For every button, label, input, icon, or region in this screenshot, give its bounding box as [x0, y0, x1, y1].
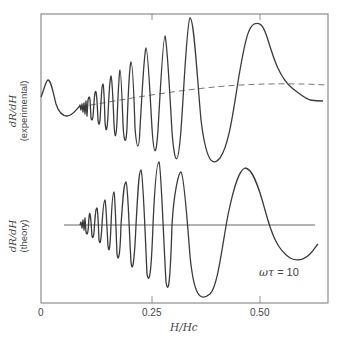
plot-frame	[41, 14, 328, 303]
bottom-y-axis-label-sub: (theory)	[18, 196, 29, 276]
top-y-axis-label: dR/dH (experimental)	[7, 71, 29, 151]
omega-tau-symbol: ωτ	[259, 266, 274, 279]
chart-canvas	[0, 0, 341, 339]
experimental-dashed-baseline	[80, 84, 326, 107]
top-y-axis-label-main: dR/dH	[7, 71, 18, 151]
experimental-curve	[41, 18, 323, 162]
top-y-axis-label-sub: (experimental)	[18, 71, 29, 151]
x-tick-label-025: 0.25	[142, 307, 161, 318]
bottom-y-axis-label-main: dR/dH	[7, 196, 18, 276]
omega-tau-value: = 10	[277, 266, 299, 278]
bottom-y-axis-label: dR/dH (theory)	[7, 196, 29, 276]
omega-tau-annotation: ωτ = 10	[259, 266, 299, 279]
x-tick-label-0: 0	[38, 307, 44, 318]
x-axis-label: H/Hc	[170, 321, 198, 333]
x-tick-label-050: 0.50	[250, 307, 269, 318]
